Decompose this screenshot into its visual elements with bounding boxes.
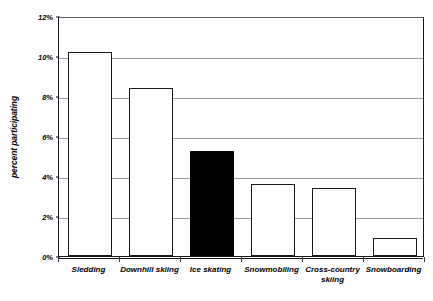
y-axis-tick-label: 12% [38,13,53,22]
x-axis-tick-mark [363,257,364,262]
bar [68,52,112,256]
bar [312,188,356,256]
y-axis-tick-label: 6% [42,133,53,142]
y-axis-tick-group: 0%2%4%6%8%10%12% [26,17,56,257]
x-axis-tick-mark [180,257,181,262]
bar [190,151,234,256]
y-axis-tick-label: 2% [42,213,53,222]
y-axis-title: percent participating [4,17,24,257]
x-axis-tick-mark [58,257,59,262]
x-axis-tick-mark [241,257,242,262]
bar [129,88,173,256]
x-axis-tick-mark [119,257,120,262]
plot-area [58,17,424,257]
y-axis-tick-label: 4% [42,173,53,182]
bar [251,184,295,256]
bar-group [59,18,423,256]
x-axis-tick-group: SleddingDownhill skiingIce skatingSnowmo… [58,257,424,301]
y-axis-tick-label: 10% [38,53,53,62]
chart-title-fragment [0,0,433,6]
x-axis-tick-mark [302,257,303,262]
winter-sports-participation-chart: percent participating 0%2%4%6%8%10%12% S… [0,0,433,301]
y-axis-tick-label: 0% [42,253,53,262]
x-axis-category-label: Snowboarding [356,265,431,275]
x-axis-tick-mark [424,257,425,262]
y-axis-tick-label: 8% [42,93,53,102]
y-axis-title-text: percent participating [9,96,19,178]
bar [373,238,417,256]
